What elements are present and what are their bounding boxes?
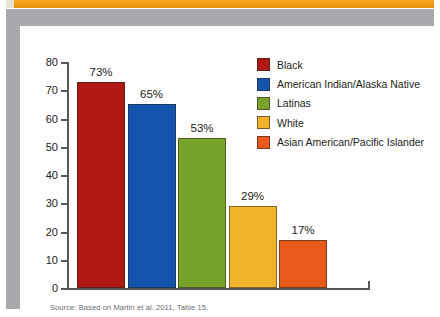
top-banner-strip [6, 0, 434, 8]
bar [77, 82, 125, 288]
y-axis-tick-label: 70 [46, 84, 58, 96]
y-axis-tick-label: 80 [46, 56, 58, 68]
y-axis-tick-mark [61, 260, 67, 262]
bar [178, 138, 226, 288]
y-axis-tick-label: 20 [46, 226, 58, 238]
plot-area: 01020304050607080 73%65%53%29%17% [67, 62, 370, 290]
y-axis-tick-label: 30 [46, 197, 58, 209]
bar-value-label: 17% [291, 224, 314, 236]
bar-column: 65% [128, 62, 176, 288]
bar-value-label: 53% [190, 122, 213, 134]
source-note: Source: Based on Martin et al. 2011, Tab… [50, 303, 208, 312]
y-axis-tick-mark [61, 232, 67, 234]
y-axis-tick-mark [61, 90, 67, 92]
y-axis-tick-label: 50 [46, 141, 58, 153]
figure-container: Black American Indian/Alaska Native Lati… [0, 0, 440, 317]
y-axis-tick-label: 0 [52, 282, 58, 294]
banner-corner-notch [6, 0, 14, 8]
y-axis-tick-mark [61, 62, 67, 64]
bar [128, 104, 176, 288]
bar-value-label: 65% [140, 88, 163, 100]
bar [229, 206, 277, 288]
y-axis-tick-label: 40 [46, 169, 58, 181]
bar-column: 73% [77, 62, 125, 288]
y-axis-tick-label: 60 [46, 113, 58, 125]
chart-panel: Black American Indian/Alaska Native Lati… [20, 26, 434, 311]
figure-frame: Black American Indian/Alaska Native Lati… [6, 9, 434, 309]
x-axis-line [67, 288, 370, 290]
y-axis-tick-mark [61, 203, 67, 205]
bar-value-label: 73% [89, 66, 112, 78]
bar-value-label: 29% [241, 190, 264, 202]
bar [279, 240, 327, 288]
y-axis-tick-mark [61, 288, 67, 290]
y-axis-tick-mark [61, 147, 67, 149]
bar-column: 29% [229, 62, 277, 288]
bar-series: 73%65%53%29%17% [69, 62, 370, 288]
bar-column: 53% [178, 62, 226, 288]
bar-column: 17% [279, 62, 327, 288]
y-axis-tick-mark [61, 175, 67, 177]
y-axis-tick-mark [61, 119, 67, 121]
y-axis-tick-label: 10 [46, 254, 58, 266]
